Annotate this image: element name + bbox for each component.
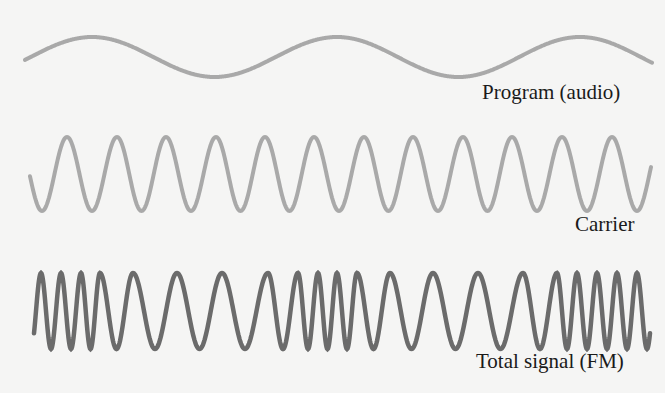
fm-label: Total signal (FM) — [476, 349, 624, 374]
program-audio-wave — [25, 37, 652, 77]
carrier-wave — [30, 137, 651, 211]
fm-diagram — [0, 0, 665, 393]
fm-total-signal-wave — [34, 273, 650, 349]
program-label: Program (audio) — [482, 80, 620, 105]
carrier-label: Carrier — [575, 212, 634, 237]
